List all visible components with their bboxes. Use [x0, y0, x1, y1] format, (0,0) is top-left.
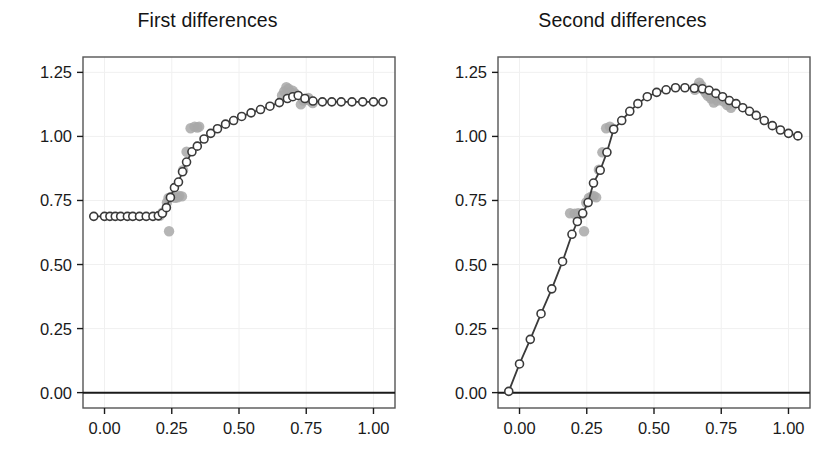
fitted-marker: [584, 199, 592, 207]
fitted-marker: [309, 97, 317, 105]
plot-area-first-differences: 0.000.250.500.751.001.250.000.250.500.75…: [0, 0, 415, 466]
fitted-marker: [618, 117, 626, 125]
fitted-marker: [337, 98, 345, 106]
fitted-marker: [247, 109, 255, 117]
y-tick-label: 1.25: [40, 63, 72, 81]
fitted-marker: [200, 135, 208, 143]
fitted-marker: [166, 193, 174, 201]
fitted-marker: [548, 285, 556, 293]
plot-area-second-differences: 0.000.250.500.751.001.250.000.250.500.75…: [415, 0, 830, 466]
fitted-marker: [505, 387, 513, 395]
fitted-marker: [90, 212, 98, 220]
fitted-marker: [526, 335, 534, 343]
fitted-marker: [568, 230, 576, 238]
fitted-marker: [573, 217, 581, 225]
x-tick-label: 0.00: [503, 419, 535, 437]
y-tick-label: 0.25: [40, 320, 72, 338]
fitted-marker: [230, 117, 238, 125]
observed-point: [177, 191, 187, 201]
x-tick-label: 1.00: [772, 419, 804, 437]
fitted-marker: [328, 98, 336, 106]
fitted-marker: [318, 98, 326, 106]
x-tick-label: 1.00: [357, 419, 389, 437]
fitted-marker: [589, 179, 597, 187]
x-axis: 0.000.250.500.751.00: [88, 408, 389, 437]
fitted-marker: [681, 84, 689, 92]
fitted-marker: [359, 98, 367, 106]
fitted-marker: [238, 112, 246, 120]
y-tick-label: 0.00: [40, 384, 72, 402]
fitted-marker: [752, 111, 760, 119]
x-tick-label: 0.75: [705, 419, 737, 437]
fitted-marker: [794, 132, 802, 140]
y-axis: 0.000.250.500.751.001.25: [40, 63, 83, 401]
fitted-marker: [174, 178, 182, 186]
observed-point: [194, 121, 204, 131]
fitted-marker: [603, 148, 611, 156]
panel-second-differences: Second differences 0.000.250.500.751.001…: [415, 0, 830, 466]
fitted-marker: [672, 84, 680, 92]
fitted-marker: [776, 126, 784, 134]
panel-first-differences: First differences 0.000.250.500.751.001.…: [0, 0, 415, 466]
fitted-marker: [626, 107, 634, 115]
observed-point: [579, 226, 589, 236]
fitted-marker: [768, 122, 776, 130]
x-tick-label: 0.50: [223, 419, 255, 437]
fitted-marker: [369, 98, 377, 106]
x-tick-label: 0.25: [156, 419, 188, 437]
fitted-marker: [596, 166, 604, 174]
fitted-marker: [257, 106, 265, 114]
x-axis: 0.000.250.500.751.00: [503, 408, 804, 437]
fitted-marker: [643, 93, 651, 101]
y-tick-label: 0.50: [455, 256, 487, 274]
observed-point: [164, 226, 174, 236]
x-tick-label: 0.75: [290, 419, 322, 437]
fitted-marker: [222, 120, 230, 128]
fitted-marker: [579, 209, 587, 217]
fitted-marker: [348, 98, 356, 106]
fitted-marker: [760, 117, 768, 125]
fitted-marker: [266, 102, 274, 110]
fitted-marker: [559, 257, 567, 265]
fitted-marker: [301, 95, 309, 103]
fitted-marker: [784, 129, 792, 137]
y-tick-label: 0.25: [455, 320, 487, 338]
y-tick-label: 1.00: [455, 127, 487, 145]
y-tick-label: 0.75: [40, 191, 72, 209]
fitted-marker: [516, 360, 524, 368]
fitted-marker: [193, 142, 201, 150]
fitted-marker: [537, 310, 545, 318]
fitted-marker: [379, 98, 387, 106]
y-tick-label: 0.00: [455, 384, 487, 402]
fitted-marker: [690, 84, 698, 92]
y-axis: 0.000.250.500.751.001.25: [455, 63, 498, 401]
fitted-marker: [634, 100, 642, 108]
fitted-marker: [183, 158, 191, 166]
x-tick-label: 0.25: [571, 419, 603, 437]
y-tick-label: 0.75: [455, 191, 487, 209]
fitted-marker: [162, 204, 170, 212]
x-tick-label: 0.00: [88, 419, 120, 437]
y-tick-label: 1.25: [455, 63, 487, 81]
fitted-marker: [653, 88, 661, 96]
fitted-marker: [213, 125, 221, 133]
fitted-marker: [275, 99, 283, 107]
chart-figure: First differences 0.000.250.500.751.001.…: [0, 0, 831, 466]
y-tick-label: 0.50: [40, 256, 72, 274]
fitted-marker: [662, 86, 670, 94]
fitted-marker: [179, 168, 187, 176]
y-tick-label: 1.00: [40, 127, 72, 145]
x-tick-label: 0.50: [638, 419, 670, 437]
fitted-marker: [610, 125, 618, 133]
